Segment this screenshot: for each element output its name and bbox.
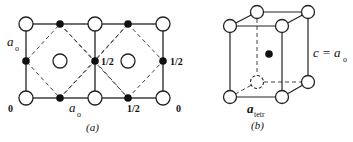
ao-left-subscript: o bbox=[15, 44, 19, 53]
ao-bottom-label: a bbox=[69, 100, 76, 115]
c-axis-label: c = a bbox=[313, 45, 341, 60]
a-tetr-subscript: tetr bbox=[254, 110, 265, 119]
height-label-bottom-mid: 1/2 bbox=[127, 103, 140, 114]
ao-bottom-subscript: o bbox=[77, 110, 81, 119]
body-center-atom bbox=[265, 50, 273, 58]
a-tetr-label: a bbox=[247, 101, 254, 116]
height-label-bottom-right: 0 bbox=[176, 103, 181, 114]
ao-left-label: a bbox=[7, 34, 14, 49]
hidden-atom bbox=[251, 76, 264, 89]
panel-b: c = a o a tetr (b) bbox=[224, 6, 348, 133]
caption-b: (b) bbox=[251, 119, 264, 132]
height-label-center: 1/2 bbox=[101, 56, 114, 67]
height-label-bottom-left: 0 bbox=[8, 103, 13, 114]
height-label-right: 1/2 bbox=[170, 56, 183, 67]
c-axis-subscript: o bbox=[343, 55, 347, 64]
panel-a: a o a o 0 0 1/2 1/2 1/2 (a) bbox=[7, 17, 183, 134]
crystal-structure-diagram: a o a o 0 0 1/2 1/2 1/2 (a) bbox=[0, 0, 353, 142]
caption-a: (a) bbox=[86, 121, 99, 134]
